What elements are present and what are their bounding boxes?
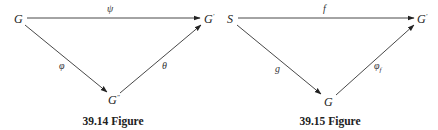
figure-caption: 39.15 Figure [299,115,360,128]
node-G-prime: G′ [417,12,428,26]
node-G-double-prime: G″ [108,93,120,107]
label-psi: ψ [107,3,114,14]
figure-39-14: G G′ G″ ψ φ θ 39.14 Figure [14,3,215,128]
edge-g-arrow [237,25,321,94]
node-G-prime: G′ [204,12,215,26]
node-S: S [227,12,233,26]
node-G: G [324,95,333,109]
edge-theta-arrow [120,25,201,93]
figure-39-15: S G′ G f g φf 39.15 Figure [227,3,428,128]
label-f: f [323,3,327,14]
label-phi-f: φf [374,60,383,74]
label-theta: θ [162,60,167,71]
commutative-diagrams: G G′ G″ ψ φ θ 39.14 Figure S G′ G f g φf… [0,0,438,130]
node-G: G [14,12,23,26]
edge-phi-arrow [25,25,107,92]
figure-caption: 39.14 Figure [82,115,143,128]
label-g: g [275,63,280,74]
label-phi: φ [59,60,65,71]
